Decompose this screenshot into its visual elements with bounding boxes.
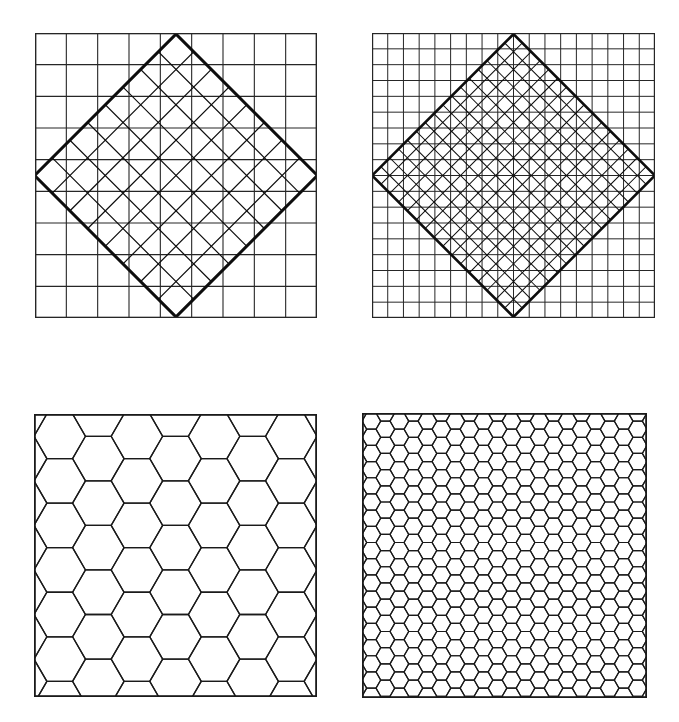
panel-bottom-right-canvas xyxy=(362,413,647,698)
panel-bottom-left xyxy=(34,414,317,697)
figure-root xyxy=(0,0,679,722)
panel-top-left xyxy=(35,33,317,318)
panel-top-right-canvas xyxy=(372,33,655,318)
panel-top-right xyxy=(372,33,655,318)
panel-bottom-right xyxy=(362,413,647,698)
panel-bottom-left-canvas xyxy=(34,414,317,697)
panel-top-left-canvas xyxy=(35,33,317,318)
